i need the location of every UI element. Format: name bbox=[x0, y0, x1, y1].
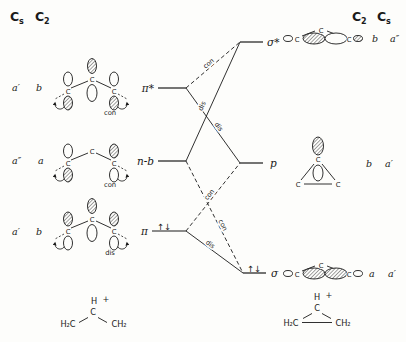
header-c2-label: C bbox=[352, 9, 361, 24]
p-lobe-shaded bbox=[88, 199, 97, 214]
p-lobe-open bbox=[313, 165, 323, 181]
sigma-electron-pair: ↑↓ bbox=[247, 264, 261, 274]
nb-cs-label: a″ bbox=[12, 155, 22, 166]
p-c2-label: b bbox=[366, 158, 372, 169]
header-cs-label: C bbox=[10, 9, 19, 24]
p-lobe-open bbox=[87, 225, 97, 242]
hydrogen-label: H bbox=[314, 292, 320, 302]
carbon-label: C bbox=[112, 88, 117, 96]
p-lobe-shaded bbox=[88, 59, 97, 74]
p-level-label: p bbox=[270, 157, 277, 169]
hydrogen-label: H bbox=[91, 296, 97, 306]
diagram-canvas: C s C 2 C 2 C s a′ b a″ a a′ b C C C con bbox=[0, 0, 406, 342]
carbon-label: C bbox=[319, 27, 324, 35]
carbon-label: C bbox=[66, 228, 71, 236]
rotation-mode-label: con bbox=[104, 109, 116, 117]
pi-c2-label: b bbox=[36, 226, 42, 237]
p-lobe-open bbox=[64, 144, 73, 158]
p-lobe-shaded bbox=[110, 212, 119, 226]
sigma-star-level-label: σ* bbox=[267, 36, 280, 48]
carbon-label: C bbox=[112, 160, 117, 168]
rotation-mode-label: con bbox=[104, 181, 116, 189]
sigma-star-cs-label: a″ bbox=[390, 33, 400, 44]
carbon-label: C bbox=[66, 160, 71, 168]
sigma-c2-label: a bbox=[369, 268, 375, 279]
p-lobe-shaded bbox=[110, 144, 119, 158]
sp3-lobe-open bbox=[325, 33, 347, 44]
carbon-label: C bbox=[347, 271, 352, 279]
sigma-star-c2-label: b bbox=[372, 33, 378, 44]
header-cs-label: C bbox=[377, 9, 386, 24]
pi-star-cs-label: a′ bbox=[12, 82, 21, 93]
carbon-label: C bbox=[295, 271, 300, 279]
carbon-label: C bbox=[90, 148, 95, 156]
sp3-lobe-open bbox=[284, 271, 293, 277]
pi-level-label: π bbox=[140, 225, 149, 237]
plus-charge: + bbox=[103, 294, 110, 304]
p-lobe-open bbox=[110, 72, 119, 86]
p-lobe-shaded bbox=[64, 212, 73, 226]
p-lobe-open bbox=[64, 72, 73, 86]
nb-level-label: n-b bbox=[137, 155, 154, 167]
p-lobe-shaded bbox=[313, 137, 324, 155]
carbon-label: C bbox=[66, 88, 71, 96]
header-cs-subscript: s bbox=[19, 17, 24, 26]
pi-star-c2-label: b bbox=[36, 82, 42, 93]
p-lobe-open bbox=[87, 85, 97, 102]
plus-charge: + bbox=[326, 290, 333, 300]
sigma-cs-label: a′ bbox=[388, 268, 397, 279]
nb-c2-label: a bbox=[38, 155, 44, 166]
carbon-label: C bbox=[336, 181, 341, 189]
carbon-label: C bbox=[347, 36, 352, 44]
pi-star-level-label: π* bbox=[141, 82, 155, 94]
carbon-label: C bbox=[90, 216, 95, 224]
p-lobe-shaded bbox=[64, 96, 73, 110]
pi-electron-pair: ↑↓ bbox=[157, 222, 171, 232]
p-cs-label: a′ bbox=[385, 158, 394, 169]
header-c2-subscript: 2 bbox=[361, 17, 367, 26]
p-lobe-open bbox=[110, 168, 119, 182]
carbon-label: C bbox=[319, 262, 324, 270]
correlation-diagram: C s C 2 C 2 C s a′ b a″ a a′ b C C C con bbox=[0, 0, 406, 342]
p-lobe-shaded bbox=[110, 96, 119, 110]
sp3-lobe-shaded bbox=[354, 36, 363, 42]
ch2-group-label: CH₂ bbox=[335, 318, 350, 328]
header-c2-label: C bbox=[35, 9, 44, 24]
p-lobe-shaded bbox=[64, 168, 73, 182]
carbon-label: C bbox=[316, 156, 321, 164]
rotation-mode-label: dis bbox=[105, 249, 115, 257]
sp3-lobe-open bbox=[284, 36, 293, 42]
sp3-lobe-shaded bbox=[325, 268, 347, 279]
carbon-label: C bbox=[296, 181, 301, 189]
header-c2-subscript: 2 bbox=[44, 17, 50, 26]
pi-cs-label: a′ bbox=[12, 226, 21, 237]
background bbox=[0, 0, 406, 342]
carbon-label: C bbox=[314, 303, 320, 313]
p-lobe-open bbox=[110, 236, 119, 250]
carbon-label: C bbox=[295, 36, 300, 44]
header-cs-subscript: s bbox=[386, 17, 391, 26]
sigma-level-label: σ bbox=[271, 267, 279, 279]
sp3-lobe-open bbox=[354, 271, 363, 277]
ch2-group-label: H₂C bbox=[60, 319, 75, 329]
p-lobe-open bbox=[64, 236, 73, 250]
carbon-label: C bbox=[112, 228, 117, 236]
ch2-group-label: H₂C bbox=[283, 318, 298, 328]
ch2-group-label: CH₂ bbox=[111, 319, 126, 329]
carbon-label: C bbox=[90, 307, 96, 317]
carbon-label: C bbox=[90, 76, 95, 84]
